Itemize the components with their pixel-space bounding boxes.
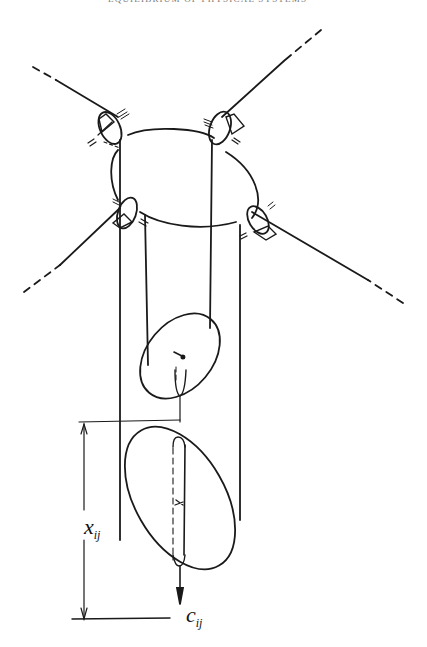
label-c-ij: cij bbox=[186, 602, 202, 631]
pulley-top-left bbox=[88, 108, 129, 148]
rod-bottom-right bbox=[252, 212, 403, 303]
large-weight bbox=[102, 408, 258, 588]
pulley-system-figure bbox=[0, 0, 427, 647]
c-symbol: c bbox=[186, 602, 196, 627]
c-subscript: ij bbox=[196, 616, 203, 630]
rod-top-right bbox=[222, 30, 321, 117]
force-arrow-c bbox=[177, 566, 183, 604]
pulley-bottom-right bbox=[240, 202, 276, 240]
ring-ellipse bbox=[111, 129, 258, 227]
rod-top-left bbox=[33, 67, 118, 117]
x-symbol: x bbox=[84, 514, 94, 539]
x-subscript: ij bbox=[94, 528, 101, 542]
rod-bottom-left bbox=[24, 208, 120, 292]
label-x-ij: xij bbox=[84, 514, 100, 543]
